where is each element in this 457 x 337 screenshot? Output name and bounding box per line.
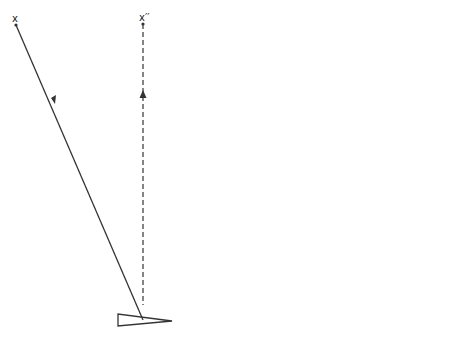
arrow-incident-a-icon xyxy=(51,95,56,104)
image-label-a: x′′ xyxy=(139,12,150,23)
prism-a xyxy=(118,314,172,326)
source-label-a: x xyxy=(12,13,18,24)
panel-a: x x′′ xyxy=(12,12,172,326)
optics-diagram: x x′′ xyxy=(0,0,457,337)
arrow-virtual-a-icon xyxy=(140,90,147,98)
incident-ray-a xyxy=(16,25,143,320)
